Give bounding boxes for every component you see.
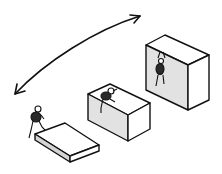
medium-box [88, 84, 150, 141]
illustration-canvas [0, 0, 222, 174]
tall-box [146, 35, 209, 110]
double-arrow-icon [15, 15, 140, 94]
